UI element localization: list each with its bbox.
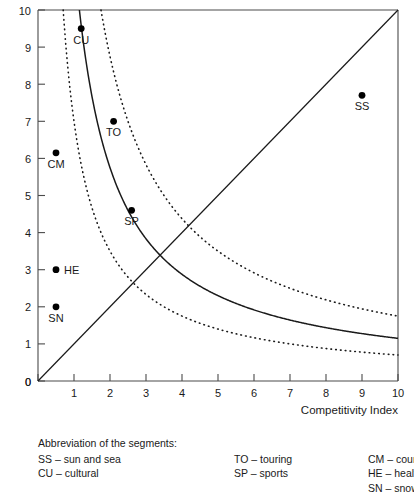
y-tick-label: 5 — [25, 190, 31, 202]
x-axis-title: Competitivity Index — [301, 404, 398, 416]
legend-block: Abbreviation of the segments: SS – sun a… — [38, 436, 408, 495]
data-point-sp — [128, 207, 135, 214]
legend-row: CU – cultural SP – sports HE – health — [38, 466, 408, 481]
data-point-to — [110, 118, 117, 125]
legend-entry-he: HE – health — [368, 466, 414, 481]
legend-row: SS – sun and sea TO – touring CM – count… — [38, 452, 408, 467]
legend-entry-sp: SP – sports — [234, 466, 288, 481]
x-tick-label: 7 — [287, 387, 293, 399]
data-point-layer: SSCUTOSPCMHESN — [47, 25, 369, 324]
curve-diagonal — [38, 10, 398, 381]
legend-entry-cu: CU – cultural — [38, 466, 99, 481]
y-tick-label: 3 — [25, 264, 31, 276]
y-tick-label: 10 — [19, 5, 31, 17]
y-tick-label: 8 — [25, 79, 31, 91]
x-axis-ticks — [38, 374, 398, 381]
x-tick-label: 2 — [107, 387, 113, 399]
data-point-label-to: TO — [106, 126, 122, 138]
data-point-cu — [78, 25, 85, 32]
scatter-chart-figure: 0 1 2 3 4 5 6 7 8 9 10 0 — [0, 0, 414, 495]
y-tick-label: 4 — [25, 227, 31, 239]
x-tick-label: 9 — [359, 387, 365, 399]
y-tick-label: 7 — [25, 116, 31, 128]
legend-heading: Abbreviation of the segments: — [38, 436, 408, 451]
x-tick-label: 3 — [143, 387, 149, 399]
data-point-cm — [53, 149, 60, 156]
y-axis-ticks — [38, 10, 45, 381]
x-tick-label: 0 — [25, 376, 31, 388]
x-tick-label: 8 — [323, 387, 329, 399]
legend-entry-cm: CM – country and mountain — [368, 452, 414, 467]
legend-entry-ss: SS – sun and sea — [38, 452, 121, 467]
x-tick-label: 1 — [71, 387, 77, 399]
x-tick-label: 10 — [392, 387, 404, 399]
y-tick-label: 9 — [25, 42, 31, 54]
x-tick-label: 6 — [251, 387, 257, 399]
data-point-label-sn: SN — [48, 312, 63, 324]
plot-canvas: 0 1 2 3 4 5 6 7 8 9 10 0 — [0, 0, 414, 495]
data-point-label-cm: CM — [47, 158, 64, 170]
x-axis-tick-labels: 0 1 2 3 4 5 6 7 8 9 10 — [25, 376, 404, 400]
data-point-he — [53, 266, 60, 273]
x-tick-label: 4 — [179, 387, 185, 399]
x-tick-label: 5 — [215, 387, 221, 399]
y-tick-label: 6 — [25, 153, 31, 165]
data-point-label-ss: SS — [355, 100, 370, 112]
data-point-label-he: HE — [64, 264, 79, 276]
data-point-ss — [359, 92, 366, 99]
data-point-sn — [53, 303, 60, 310]
data-point-label-sp: SP — [124, 215, 139, 227]
y-tick-label: 2 — [25, 301, 31, 313]
legend-row: SN – snow — [38, 481, 408, 495]
data-point-label-cu: CU — [73, 34, 89, 46]
curve-layer — [38, 10, 398, 381]
y-axis-tick-labels: 0 1 2 3 4 5 6 7 8 9 10 — [19, 5, 31, 388]
y-tick-label: 1 — [25, 338, 31, 350]
legend-grid: SS – sun and sea TO – touring CM – count… — [38, 452, 408, 495]
legend-entry-to: TO – touring — [234, 452, 292, 467]
legend-entry-sn: SN – snow — [368, 481, 414, 495]
